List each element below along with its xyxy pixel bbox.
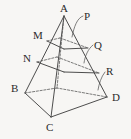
geometry-diagram-screenshot: APMQNRBDC [0, 0, 131, 139]
hidden-cross-upper-right [60, 38, 88, 48]
vertex-label-b: B [11, 83, 18, 94]
leader-lines-group [72, 16, 105, 90]
vertex-label-a: A [60, 3, 68, 14]
edge-a-c [51, 16, 64, 117]
hidden-edge-b-back [25, 88, 57, 93]
vertex-label-r: R [106, 66, 113, 77]
vertex-label-c: C [46, 122, 53, 133]
vertex-label-q: Q [94, 40, 102, 51]
edge-b-c [25, 93, 51, 117]
vertex-label-d: D [112, 92, 120, 103]
cross-section-upper-front-right [64, 48, 88, 49]
vertex-label-p: P [84, 11, 90, 22]
vertex-label-n: N [23, 53, 31, 64]
cross-section-lower-front-left [37, 62, 64, 72]
hidden-edge-d-back [57, 88, 107, 97]
hidden-cross-lower-right [57, 57, 99, 73]
vertex-label-m: M [33, 30, 43, 41]
hidden-cross-upper-left [47, 38, 60, 41]
edge-c-d [51, 97, 107, 117]
hidden-cross-lower-left [37, 57, 57, 62]
